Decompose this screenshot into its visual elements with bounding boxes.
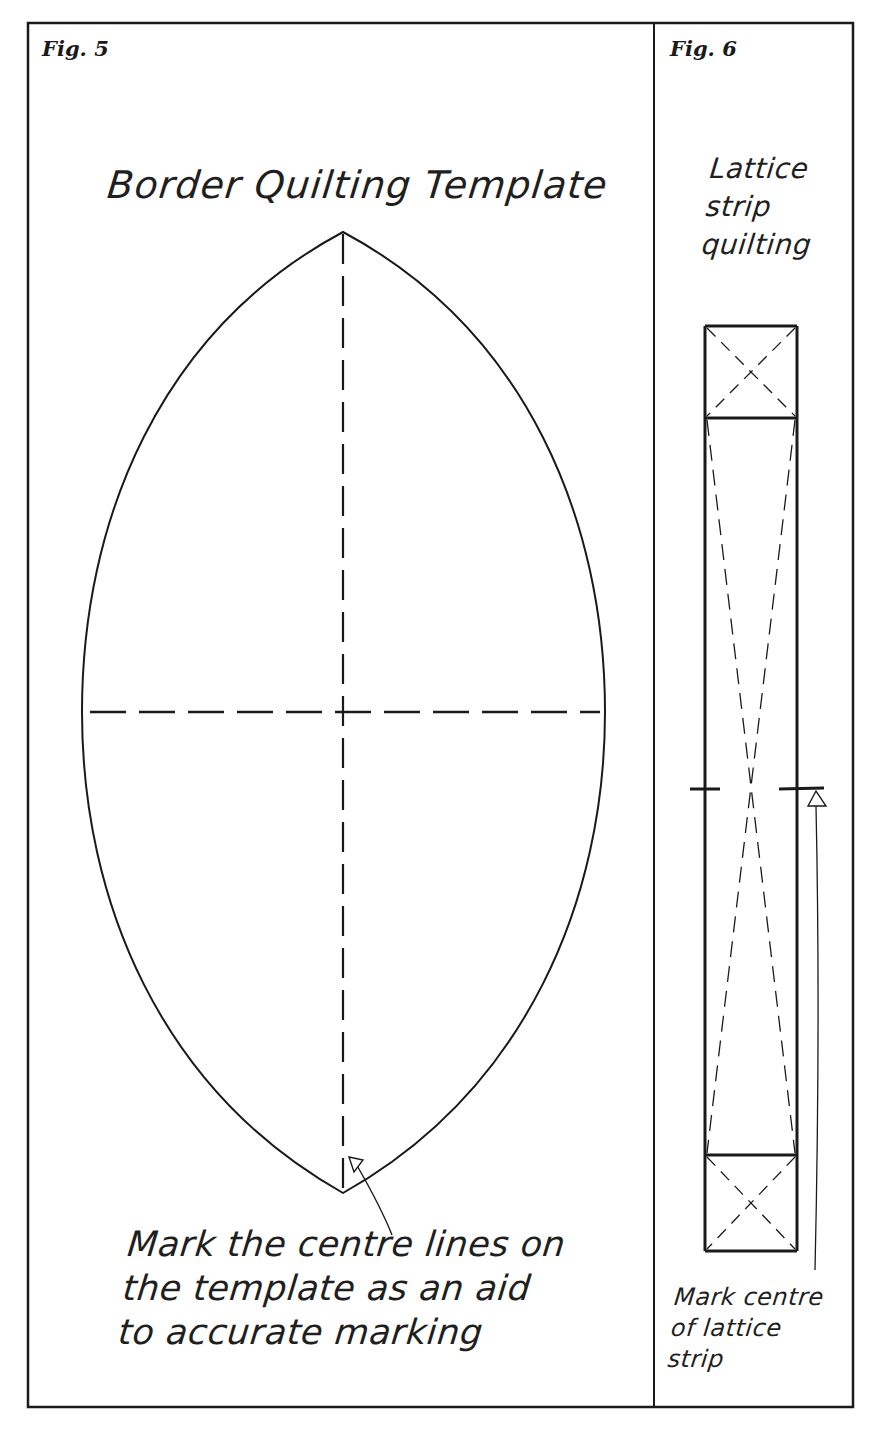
- centre-mark-right: [779, 788, 824, 789]
- fig6-annotation-line: strip: [666, 1344, 839, 1375]
- centre-pointer-line: [815, 806, 818, 1270]
- fig6-title-line: strip: [704, 188, 828, 226]
- fig5-annotation: Mark the centre lines on the template as…: [116, 1222, 610, 1354]
- fig6-annotation-line: Mark centre: [673, 1282, 846, 1313]
- fig5-annotation-line: Mark the centre lines on: [125, 1222, 610, 1266]
- bottom-square-diagonals: [707, 1157, 795, 1249]
- leaf-template: [82, 232, 605, 1235]
- lattice-strip: [690, 326, 826, 1270]
- fig6-title-line: quilting: [700, 226, 824, 264]
- quilting-diagram-page: Fig. 5 Fig. 6 Border Quilting Template L…: [0, 0, 876, 1430]
- open-arrowhead-icon: [349, 1157, 363, 1172]
- fig5-title: Border Quilting Template: [105, 163, 610, 207]
- strip-long-diagonals: [707, 420, 795, 1153]
- fig5-annotation-line: the template as an aid: [121, 1266, 606, 1310]
- fig6-annotation: Mark centre of lattice strip: [666, 1282, 846, 1375]
- open-arrowhead-up-icon: [808, 791, 826, 806]
- fig6-title-line: Lattice: [708, 150, 832, 188]
- fig5-annotation-line: to accurate marking: [116, 1310, 601, 1354]
- fig5-label: Fig. 5: [42, 36, 109, 61]
- fig6-label: Fig. 6: [670, 36, 737, 61]
- fig6-title: Lattice strip quilting: [700, 150, 832, 264]
- fig6-annotation-line: of lattice: [669, 1313, 842, 1344]
- top-square-diagonals: [707, 328, 795, 416]
